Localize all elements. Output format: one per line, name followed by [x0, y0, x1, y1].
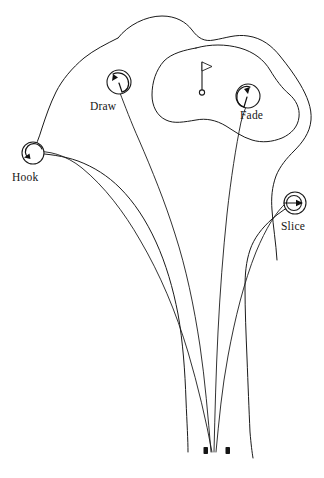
pin-flagstick	[199, 62, 212, 95]
marker-hook[interactable]	[22, 142, 44, 164]
golf-shot-shapes-diagram: Draw Fade Hook Slice	[0, 0, 324, 478]
tee-marker-right	[226, 447, 231, 454]
trajectory-fade	[214, 102, 248, 452]
trajectory-hook	[34, 152, 212, 452]
draw-marker-circle[interactable]	[107, 70, 131, 94]
label-slice: Slice	[281, 220, 305, 232]
marker-draw[interactable]	[107, 70, 131, 94]
label-hook: Hook	[12, 171, 38, 183]
marker-slice[interactable]	[284, 192, 306, 214]
label-draw: Draw	[90, 100, 117, 112]
fairway-left-edge	[33, 153, 188, 452]
trajectory-draw	[120, 93, 211, 452]
diagram-canvas: Draw Fade Hook Slice	[0, 0, 324, 478]
green-outline	[152, 45, 299, 142]
tee-marker-left	[204, 447, 209, 454]
marker-fade[interactable]	[236, 84, 260, 108]
label-fade: Fade	[240, 109, 263, 121]
hole-cup-icon	[199, 90, 204, 95]
fairway-right-edge	[245, 203, 295, 458]
flag-pennant-icon	[202, 62, 212, 71]
trajectory-slice	[216, 196, 296, 452]
